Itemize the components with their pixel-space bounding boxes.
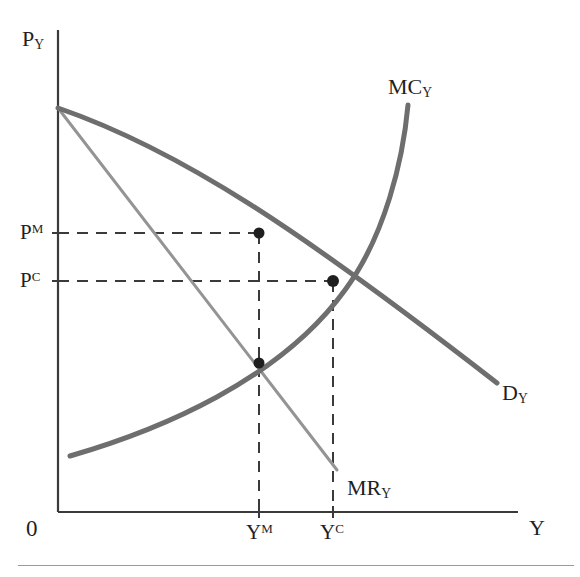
demand-curve-subscript: Y xyxy=(518,391,528,406)
marginal-cost-curve-subscript: Y xyxy=(422,85,432,100)
marginal-revenue-curve-base: MR xyxy=(347,475,381,500)
monopoly-price-label: PM xyxy=(20,222,43,243)
competitive-price-superscript: C xyxy=(32,269,41,284)
marginal-revenue-curve-subscript: Y xyxy=(381,486,391,501)
x-axis-label: Y xyxy=(529,517,545,539)
demand-curve xyxy=(58,108,497,383)
competitive-price-base: P xyxy=(20,268,32,292)
monopoly-price-base: P xyxy=(20,220,32,244)
competitive-quantity-label: YC xyxy=(320,522,344,543)
origin-label: 0 xyxy=(26,517,38,540)
monopoly-quantity-superscript: M xyxy=(261,521,273,536)
competitive-quantity-base: Y xyxy=(320,520,335,544)
page-footer-rule xyxy=(18,565,574,566)
y-axis-label-subscript: Y xyxy=(34,37,44,52)
marginal-cost-curve-label: MCY xyxy=(388,76,432,98)
monopoly-equilibrium-point xyxy=(254,228,265,239)
monopoly-quantity-base: Y xyxy=(246,520,261,544)
demand-curve-base: D xyxy=(502,380,518,405)
y-axis-label: PY xyxy=(22,28,44,50)
demand-curve-label: DY xyxy=(502,382,528,404)
monopoly-quantity-label: YM xyxy=(246,522,273,543)
marginal-cost-curve-base: MC xyxy=(388,74,422,99)
marginal-revenue-curve-label: MRY xyxy=(347,477,391,499)
monopoly-price-superscript: M xyxy=(32,221,44,236)
y-axis-label-base: P xyxy=(22,26,34,51)
mr-mc-intersection-point xyxy=(254,358,265,369)
competitive-quantity-superscript: C xyxy=(335,521,344,536)
competitive-price-label: PC xyxy=(20,270,41,291)
economics-diagram xyxy=(0,0,580,577)
competitive-equilibrium-point xyxy=(327,275,339,287)
marginal-revenue-curve xyxy=(58,108,337,470)
